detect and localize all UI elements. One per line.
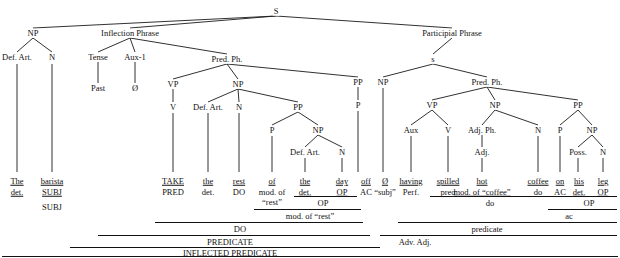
terminal-word-0: The bbox=[10, 177, 23, 186]
tree-node-predph1: Pred. Ph. bbox=[211, 55, 244, 64]
function-label-5: mod. of bbox=[259, 188, 285, 197]
tree-node-np2: NP bbox=[232, 80, 245, 89]
function-label-9: “subj” bbox=[374, 188, 396, 197]
bracket-label-6: DO bbox=[234, 225, 246, 234]
word-text: hot bbox=[477, 176, 488, 186]
bracket-rule-1 bbox=[294, 196, 357, 197]
bracket-rule-6 bbox=[155, 222, 363, 223]
word-text: off bbox=[361, 176, 371, 186]
edge-S-PartPh bbox=[276, 16, 452, 28]
terminal-word-13: coffee bbox=[527, 177, 548, 186]
edge-PredPh1-NP2 bbox=[227, 64, 238, 79]
edge-PredPh1-PP3 bbox=[227, 64, 358, 77]
tree-node-np6: NP bbox=[489, 101, 502, 110]
edge-NP7-Poss bbox=[578, 135, 592, 147]
tree-node-predph2: Pred. Ph. bbox=[471, 78, 504, 87]
terminal-word-14: on bbox=[556, 177, 565, 186]
edge-NP6-AdjPh bbox=[482, 110, 495, 125]
tree-node-defart2: Def. Art. bbox=[192, 103, 224, 112]
word-text: having bbox=[399, 176, 422, 186]
terminal-word-4: rest bbox=[233, 177, 245, 186]
word-text: TAKE bbox=[162, 176, 184, 186]
tree-node-adjph: Adj. Ph. bbox=[467, 126, 497, 135]
tree-node-n3: N bbox=[338, 148, 346, 157]
tree-node-tense: Tense bbox=[87, 53, 109, 62]
edge-NP1-DefArt1 bbox=[17, 38, 33, 52]
edge-NP2-PP1 bbox=[238, 89, 298, 102]
bracket-label-8: PREDICATE bbox=[207, 238, 253, 247]
tree-node-p1: P bbox=[269, 126, 276, 135]
tree-node-aux1: Aux-1 bbox=[123, 53, 147, 62]
function-label-3: det. bbox=[202, 188, 215, 197]
edge-NP6-N4 bbox=[495, 110, 538, 125]
tree-node-n2: N bbox=[235, 103, 243, 112]
bracket-rule-9 bbox=[380, 235, 617, 236]
terminal-word-8: off bbox=[361, 177, 371, 186]
bracket-label-3: OP bbox=[584, 199, 595, 208]
tree-node-p4: P bbox=[557, 126, 564, 135]
terminal-word-5: of bbox=[268, 177, 275, 186]
tree-node-pp1: PP bbox=[292, 103, 303, 112]
bracket-label-4: mod. of “rest” bbox=[286, 212, 334, 221]
function-label-10: Perf. bbox=[403, 188, 419, 197]
function-label-13: do bbox=[534, 188, 543, 197]
tree-node-partph: Participial Phrase bbox=[421, 29, 483, 38]
terminal-word-2: TAKE bbox=[162, 177, 184, 186]
bracket-rule-5 bbox=[548, 209, 617, 210]
tree-node-np5: NP bbox=[377, 78, 390, 87]
terminal-word-7: day bbox=[336, 177, 348, 186]
edge-NP1-N1 bbox=[33, 38, 52, 52]
tree-node-past: Past bbox=[90, 84, 106, 93]
bracket-rule-2 bbox=[430, 196, 570, 197]
function-label-14: AC bbox=[554, 188, 566, 197]
tree-node-p3: P bbox=[355, 101, 362, 110]
function-label-4: DO bbox=[233, 188, 245, 197]
tree-node-defart3: Def. Art. bbox=[289, 148, 321, 157]
bracket-label-2: do bbox=[486, 199, 495, 208]
word-text: Ø bbox=[382, 176, 388, 186]
tree-node-v1: V bbox=[169, 103, 177, 112]
tree-node-s: S bbox=[273, 7, 280, 16]
edge-NP2-N2 bbox=[238, 89, 239, 102]
word-text: The bbox=[10, 176, 23, 186]
terminal-word-9: Ø bbox=[382, 177, 388, 186]
word-text: day bbox=[336, 176, 348, 186]
word-text: leg bbox=[598, 176, 608, 186]
word-text: the bbox=[203, 176, 213, 186]
edge-NP3-DefArt3 bbox=[305, 135, 318, 147]
word-text: barista bbox=[41, 176, 64, 186]
terminal-word-6: the bbox=[300, 177, 310, 186]
function-label-2: PRED bbox=[162, 188, 184, 197]
tree-node-aux2: Aux bbox=[403, 126, 420, 135]
function-label-12: mod. of “coffee” bbox=[453, 188, 510, 197]
function-label-7: OP bbox=[337, 188, 348, 197]
bracket-rule-7 bbox=[398, 222, 617, 223]
function-label-0: det. bbox=[11, 188, 24, 197]
edge-PP4-P4 bbox=[560, 110, 578, 125]
tree-node-n5: N bbox=[599, 148, 607, 157]
edge-PP1-P1 bbox=[272, 112, 298, 125]
edge-PredPh2-VP2 bbox=[432, 87, 487, 100]
edge-PartPh-s2 bbox=[433, 38, 452, 54]
function-label-6: det. bbox=[299, 188, 312, 197]
word-text: rest bbox=[233, 176, 245, 186]
edge-VP2-V2 bbox=[432, 110, 448, 125]
word-text: spilled bbox=[437, 176, 460, 186]
tree-node-np7: NP bbox=[586, 126, 599, 135]
tree-node-defart1: Def. Art. bbox=[1, 53, 33, 62]
bracket-rule-3 bbox=[568, 196, 617, 197]
terminal-word-16: leg bbox=[598, 177, 608, 186]
terminal-word-3: the bbox=[203, 177, 213, 186]
edge-PredPh1-VP1 bbox=[173, 64, 227, 79]
edge-IP-Tense bbox=[98, 38, 130, 52]
tree-node-n4: N bbox=[534, 126, 542, 135]
word-text: of bbox=[268, 176, 275, 186]
terminal-word-10: having bbox=[399, 177, 422, 186]
bracket-rule-8 bbox=[98, 235, 370, 236]
tree-node-np1: NP bbox=[27, 29, 40, 38]
terminal-word-12: hot bbox=[477, 177, 488, 186]
word-text: coffee bbox=[527, 176, 548, 186]
tree-node-zero1: Ø bbox=[131, 84, 139, 93]
tree-node-vp1: VP bbox=[167, 80, 180, 89]
edge-s2-PredPh2 bbox=[433, 64, 487, 77]
